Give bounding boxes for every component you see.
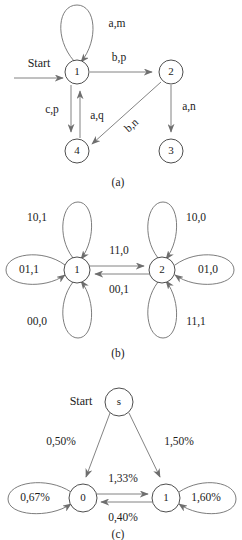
edge-label-00-0: 00,0 [27, 315, 47, 328]
edge-label-a-q: a,q [90, 109, 104, 122]
edge-s-0-c [86, 413, 110, 477]
edge-s-1-c [129, 413, 160, 477]
edge-label-a-m: a,m [109, 17, 126, 30]
state-label-3-a: 3 [168, 144, 174, 156]
edge-label-c-p: c,p [45, 103, 59, 116]
state-label-4-a: 4 [74, 144, 80, 156]
figure-page: Start a,m b,p c,p a,q a,n b,n 1 2 3 4 (a… [0, 0, 242, 540]
edge-1-1-top-b [63, 202, 92, 259]
edge-label-1-33: 1,33% [108, 472, 138, 485]
edge-label-0-67: 0,67% [20, 491, 50, 504]
state-label-2-a: 2 [168, 65, 174, 77]
automaton-diagram-a: Start a,m b,p c,p a,q a,n b,n 1 2 3 4 (a… [0, 0, 242, 190]
caption-c: (c) [112, 528, 125, 540]
edge-label-10-0: 10,0 [186, 211, 206, 224]
edge-label-01-1: 01,1 [19, 263, 39, 276]
edge-label-1-50: 1,50% [164, 435, 194, 448]
start-label-a: Start [28, 56, 51, 70]
edge-label-b-n: b,n [122, 116, 142, 135]
edge-label-00-1: 00,1 [109, 283, 129, 296]
edge-label-1-60: 1,60% [191, 491, 221, 504]
edge-label-11-1: 11,1 [186, 315, 206, 328]
edge-label-10-1: 10,1 [27, 211, 47, 224]
state-label-0-c: 0 [80, 491, 86, 503]
state-label-1-c: 1 [163, 491, 169, 503]
edge-label-0-40: 0,40% [108, 511, 138, 524]
start-label-c: Start [70, 394, 93, 408]
state-label-s-c: s [117, 395, 121, 407]
caption-b: (b) [111, 347, 125, 360]
automaton-diagram-c: Start 0,50% 1,50% 1,33% 0,40% 0,67% 1,60… [0, 360, 242, 540]
edge-label-11-0: 11,0 [109, 244, 129, 257]
state-label-1-b: 1 [74, 263, 80, 275]
edge-2-2-bottom-b [148, 281, 177, 338]
edge-label-a-n: a,n [182, 100, 196, 113]
edge-label-01-0: 01,0 [198, 263, 218, 276]
edge-label-b-p: b,p [112, 51, 127, 64]
edge-2-2-top-b [148, 202, 177, 259]
automaton-diagram-b: 10,1 01,1 00,0 10,0 01,0 11,1 11,0 00,1 … [0, 180, 242, 360]
state-label-1-a: 1 [74, 65, 80, 77]
edge-1-1-bottom-b [63, 281, 92, 338]
state-label-2-b: 2 [159, 263, 165, 275]
edge-1-1-a [61, 5, 93, 62]
edge-label-0-50: 0,50% [46, 435, 76, 448]
